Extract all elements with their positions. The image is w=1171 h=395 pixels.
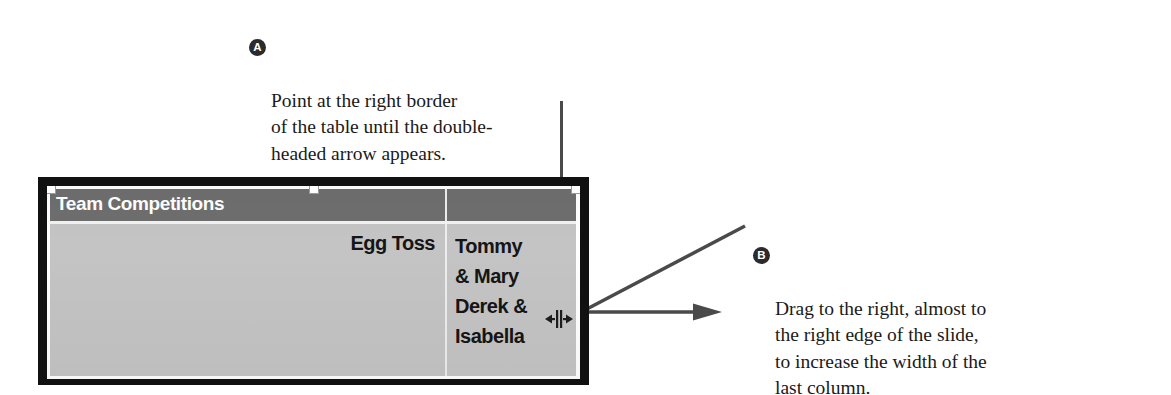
selection-border-bottom: [47, 376, 580, 379]
selection-handle-top-right[interactable]: [571, 186, 580, 194]
selection-border-left: [47, 186, 50, 379]
slide-frame: Team Competitions Egg Toss Tommy & Mary …: [38, 177, 589, 385]
callout-b-badge: B: [753, 247, 770, 264]
leader-line-b: [585, 226, 745, 310]
callout-b: B Drag to the right, almost to the right…: [753, 216, 1083, 395]
column-resize-cursor-icon[interactable]: [545, 309, 573, 329]
table-header-cell-title[interactable]: Team Competitions: [47, 186, 445, 221]
selection-handle-top-center[interactable]: [309, 186, 319, 194]
table-header-cell-empty[interactable]: [445, 186, 580, 221]
table-cell-participants[interactable]: Tommy & Mary Derek & Isabella: [445, 224, 580, 379]
table-cell-participants-text: Tommy & Mary Derek & Isabella: [455, 231, 527, 351]
table-header-title: Team Competitions: [56, 193, 224, 215]
callout-a-text: Point at the right border of the table u…: [249, 88, 549, 168]
callout-b-text: Drag to the right, almost to the right e…: [753, 296, 1083, 395]
slide-canvas[interactable]: Team Competitions Egg Toss Tommy & Mary …: [47, 186, 580, 379]
callout-a-badge: A: [249, 39, 266, 56]
powerpoint-table[interactable]: Team Competitions Egg Toss Tommy & Mary …: [47, 186, 580, 379]
callout-a-row: A Point at the right border of the table…: [249, 35, 549, 194]
selection-handle-top-left[interactable]: [47, 186, 56, 194]
table-cell-event[interactable]: Egg Toss: [47, 224, 445, 379]
drag-arrow-right: [585, 304, 722, 321]
table-cell-event-text: Egg Toss: [350, 232, 435, 255]
table-body-row[interactable]: Egg Toss Tommy & Mary Derek & Isabella: [47, 224, 580, 379]
selection-border-right: [576, 186, 580, 379]
callout-b-row: B Drag to the right, almost to the right…: [753, 243, 1083, 395]
